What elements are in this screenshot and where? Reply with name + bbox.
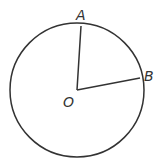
label-O: O — [63, 94, 74, 110]
label-A: A — [75, 7, 86, 23]
label-B: B — [144, 68, 154, 84]
radius-OA — [77, 26, 81, 90]
radius-OB — [77, 78, 140, 90]
circle-diagram: A B O — [0, 0, 163, 168]
